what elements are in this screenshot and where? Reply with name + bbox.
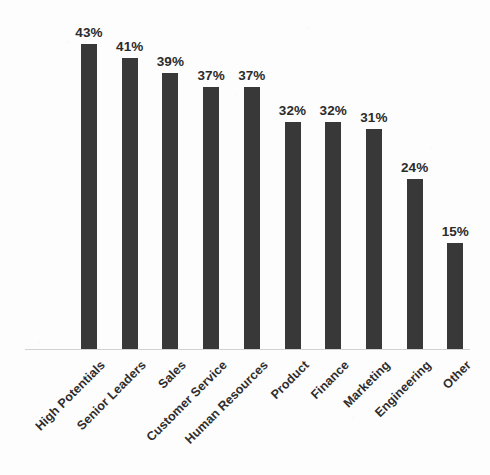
bar-value-label: 37% <box>238 68 265 83</box>
bar-value-label: 32% <box>279 103 306 118</box>
bar-value-label: 15% <box>442 224 469 239</box>
x-axis-category-labels: High PotentialsSenior LeadersSalesCustom… <box>0 350 490 475</box>
bar-group: 37% <box>244 87 260 349</box>
bar <box>244 87 260 349</box>
bar-value-label: 41% <box>116 39 143 54</box>
bar <box>366 129 382 349</box>
bar-group: 31% <box>366 129 382 349</box>
bar <box>285 122 301 349</box>
bar-group: 41% <box>122 58 138 349</box>
bar-value-label: 37% <box>197 68 224 83</box>
bar-value-label: 39% <box>157 54 184 69</box>
plot-area: 43%41%39%37%37%32%32%31%24%15% <box>0 0 490 350</box>
bar <box>81 44 97 349</box>
bar-group: 43% <box>81 44 97 349</box>
bar-group: 32% <box>325 122 341 349</box>
bar <box>122 58 138 349</box>
bar-value-label: 43% <box>75 25 102 40</box>
bar-value-label: 24% <box>401 160 428 175</box>
bar-value-label: 31% <box>360 110 387 125</box>
bar-group: 32% <box>285 122 301 349</box>
bar-chart: 43%41%39%37%37%32%32%31%24%15% High Pote… <box>0 0 490 475</box>
bar <box>325 122 341 349</box>
bar-value-label: 32% <box>320 103 347 118</box>
